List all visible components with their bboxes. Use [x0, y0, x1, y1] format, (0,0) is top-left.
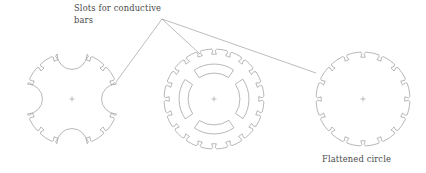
- slotted-lamination-with-cutouts-inner-cutout: [236, 79, 249, 118]
- slotted-lamination-with-cutouts-inner-cutout: [194, 121, 233, 134]
- slotted-lamination-with-cutouts-inner-cutout: [179, 79, 192, 118]
- scalloped-lamination: [27, 54, 116, 143]
- slots-callout-leader-line: [162, 19, 316, 73]
- slots-callout-line2: bars: [74, 15, 93, 25]
- flattened-circle-label: Flattened circle: [322, 154, 391, 164]
- slots-callout-leader-line: [162, 19, 200, 54]
- slotted-lamination-with-cutouts-inner-cutout: [194, 64, 233, 77]
- slots-callout-line1: Slots for conductive: [74, 3, 161, 13]
- labels-layer: Slots for conductive bars Flattened circ…: [74, 3, 391, 164]
- slotted-lamination-with-cutouts: [164, 49, 264, 149]
- leader-lines-layer: [116, 19, 316, 82]
- shapes-layer: [27, 49, 409, 149]
- flattened-circle-lamination: [316, 52, 410, 146]
- slots-callout-leader-line: [116, 19, 162, 82]
- rotor-lamination-diagram: Slots for conductive bars Flattened circ…: [0, 0, 426, 173]
